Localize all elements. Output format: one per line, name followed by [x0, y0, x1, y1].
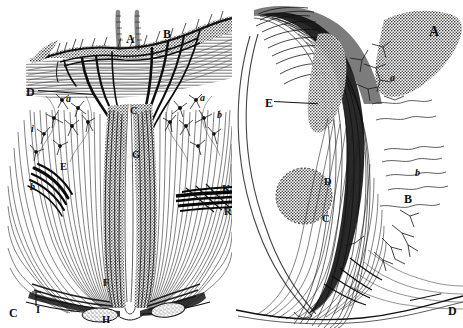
figure-label-left-b-1: B: [163, 28, 171, 40]
figure-label-left-c-14: C: [9, 307, 18, 319]
figure-label-right-a-0: A: [429, 25, 439, 39]
histology-figure: ABDCGaabiEbKRFCIHAaEDbBCD: [0, 0, 463, 328]
figure-label-left-e-9: E: [60, 162, 67, 173]
figure-label-right-d-3: D: [324, 177, 332, 188]
figure-label-right-a-1: a: [390, 73, 395, 83]
figure-label-right-b-4: b: [415, 168, 420, 178]
figure-label-left-k-11: K: [222, 184, 230, 195]
figure-label-left-a-0: A: [126, 33, 135, 45]
figure-label-left-i-8: i: [31, 124, 34, 134]
figure-label-right-e-2: E: [265, 97, 273, 109]
figure-label-left-b-7: b: [217, 110, 222, 120]
figure-label-left-c-3: C: [130, 106, 138, 117]
figure-label-left-i-15: I: [36, 305, 40, 316]
figure-label-left-r-12: R: [224, 207, 232, 218]
figure-label-left-f-13: F: [103, 278, 109, 289]
figure-label-right-b-5: B: [404, 193, 412, 205]
figure-label-left-b-10: b: [30, 182, 35, 192]
figure-label-left-a-6: a: [200, 93, 205, 103]
figure-label-right-c-6: C: [322, 214, 330, 225]
figure-label-right-d-7: D: [448, 305, 457, 317]
figure-label-left-h-16: H: [102, 315, 110, 326]
right-panel: [232, 0, 463, 328]
left-panel: [0, 0, 232, 328]
right-panel-drawing: [232, 0, 463, 328]
figure-label-left-d-2: D: [26, 86, 35, 98]
left-panel-drawing: [0, 0, 232, 328]
figure-label-left-g-4: G: [132, 150, 140, 161]
figure-label-left-a-5: a: [66, 94, 71, 104]
